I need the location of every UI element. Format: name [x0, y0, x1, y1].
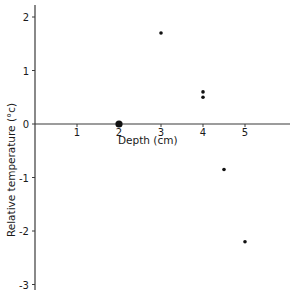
y-tick-label: -1	[19, 173, 29, 184]
data-point-marker	[201, 95, 205, 99]
data-point-marker	[222, 168, 226, 172]
y-tick-label: -2	[19, 226, 29, 237]
y-axis-ticks: 210-1-2-3	[19, 12, 35, 291]
y-tick-label: 2	[23, 12, 29, 23]
data-point-marker	[243, 240, 247, 244]
x-tick-label: 1	[74, 127, 80, 138]
x-axis-label: Depth (cm)	[118, 134, 178, 146]
data-point-marker	[159, 31, 163, 35]
y-tick-label: 0	[23, 119, 29, 130]
y-tick-label: -3	[19, 280, 29, 291]
y-tick-label: 1	[23, 66, 29, 77]
x-tick-label: 5	[242, 127, 248, 138]
x-tick-label: 4	[200, 127, 206, 138]
y-axis-label: Relative temperature (°c)	[5, 103, 17, 237]
data-point-marker	[115, 120, 122, 127]
scatter-chart: 210-1-2-3 12345 Depth (cm) Relative temp…	[0, 0, 295, 302]
data-point-marker	[201, 90, 205, 94]
